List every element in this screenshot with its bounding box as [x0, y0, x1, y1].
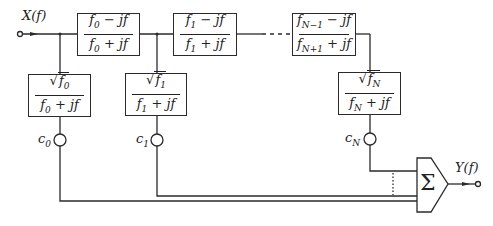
allpass-block-n: fN−1 − jf fN+1 + jf: [292, 13, 356, 56]
lowpass-block-1: √f1 f1 + jf: [125, 73, 187, 116]
coef-label-cN: cN: [345, 130, 360, 148]
input-terminal: [18, 32, 23, 37]
input-arrow-icon: [30, 32, 38, 36]
output-label: Y(f): [455, 160, 479, 175]
lowpass-block-n: √fN fN + jf: [338, 72, 401, 115]
input-label: X(f): [22, 8, 46, 23]
coef-c0-icon: [54, 134, 66, 146]
allpass-block-1: f1 − jf f1 + jf: [173, 13, 237, 56]
lowpass-block-0: √f0 f0 + jf: [28, 74, 91, 117]
output-terminal: [476, 182, 481, 187]
sigma-icon: Σ: [420, 170, 436, 195]
output-arrow-icon: [462, 182, 470, 186]
allpass-block-0: f0 − jf f0 + jf: [77, 13, 140, 56]
coef-c1-icon: [151, 134, 163, 146]
coef-label-c0: c0: [38, 131, 51, 149]
coef-cN-icon: [364, 133, 376, 145]
coef-label-c1: c1: [136, 131, 149, 149]
